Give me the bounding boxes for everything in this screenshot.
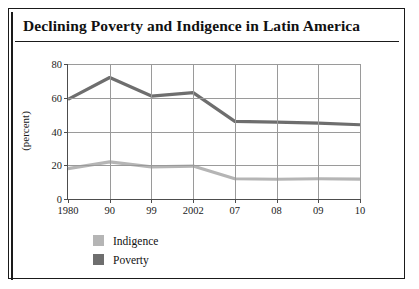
gridline-vertical [360,64,361,199]
y-axis-tick-label: 0 [57,194,62,205]
legend-swatch-indigence [93,235,104,246]
legend-label-poverty: Poverty [113,254,149,266]
x-axis-tick [360,199,361,203]
x-axis-tick-label: 09 [313,205,324,216]
series-line-poverty [68,78,360,125]
x-axis-tick [193,199,194,203]
plot-area: 02040608019809099200207080910 [67,64,360,200]
gridline-vertical [151,64,152,199]
y-axis-tick-label: 40 [52,126,63,137]
gridline-vertical [277,64,278,199]
legend-item-indigence: Indigence [93,231,158,250]
x-axis-tick-label: 2002 [183,205,204,216]
y-axis-tick-label: 20 [52,160,63,171]
chart-legend: Indigence Poverty [93,231,158,269]
y-axis-tick [64,64,68,65]
y-axis-tick [64,132,68,133]
title-divider [15,41,399,42]
y-axis-tick-label: 60 [52,92,63,103]
y-axis-tick-label: 80 [52,59,63,70]
legend-item-poverty: Poverty [93,250,158,269]
gridline-horizontal [68,165,360,166]
x-axis-tick [318,199,319,203]
x-axis-tick-label: 1980 [58,205,79,216]
x-axis-tick-label: 99 [146,205,157,216]
x-axis-tick [68,199,69,203]
x-axis-tick-label: 07 [230,205,241,216]
legend-label-indigence: Indigence [113,235,158,247]
gridline-vertical [193,64,194,199]
x-axis-tick [277,199,278,203]
x-axis-tick [151,199,152,203]
y-axis-tick [64,98,68,99]
gridline-horizontal [68,64,360,65]
gridline-vertical [110,64,111,199]
gridline-horizontal [68,132,360,133]
x-axis-tick [235,199,236,203]
gridline-horizontal [68,98,360,99]
figure-panel: Declining Poverty and Indigence in Latin… [8,8,405,279]
x-axis-tick-label: 08 [271,205,282,216]
y-axis-label: (percent) [19,111,31,151]
gridline-vertical [235,64,236,199]
x-axis-tick-label: 90 [104,205,115,216]
y-axis-tick [64,165,68,166]
legend-swatch-poverty [93,254,104,265]
chart-title: Declining Poverty and Indigence in Latin… [23,17,393,35]
x-axis-tick [110,199,111,203]
plot-wrapper: (percent) 02040608019809099200207080910 [9,43,406,223]
x-axis-tick-label: 10 [355,205,366,216]
gridline-vertical [318,64,319,199]
